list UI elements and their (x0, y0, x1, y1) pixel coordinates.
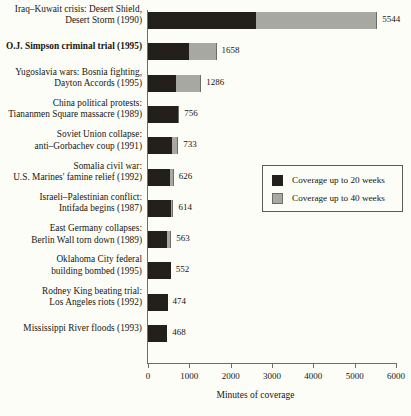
bar-value-label: 1658 (222, 45, 240, 55)
bar-segment-weeks20 (148, 294, 168, 311)
row-label-line: Desert Storm (1990) (0, 15, 142, 26)
row-label: East Germany collapses:Berlin Wall torn … (0, 223, 142, 246)
bar-segment-weeks40 (170, 169, 174, 186)
row-label-line: China political protests: (0, 98, 142, 109)
legend-item-weeks40: Coverage up to 40 weeks (272, 189, 402, 207)
x-tick-label: 6000 (387, 371, 405, 381)
bar-segment-weeks20 (148, 262, 171, 279)
row-label-line: Oklahoma City federal (0, 254, 142, 265)
x-tick-label: 0 (146, 371, 151, 381)
row-label-line: O.J. Simpson criminal trial (1995) (0, 41, 142, 52)
stacked-bar (148, 12, 377, 29)
x-tick (355, 363, 356, 368)
x-tick-label: 1000 (180, 371, 198, 381)
chart-row: Iraq–Kuwait crisis: Desert Shield,Desert… (0, 8, 411, 39)
row-label-line: anti–Gorbachev coup (1991) (0, 141, 142, 152)
row-label: O.J. Simpson criminal trial (1995) (0, 41, 142, 52)
row-label: Soviet Union collapse:anti–Gorbachev cou… (0, 129, 142, 152)
row-label-line: Israeli–Palestinian conflict: (0, 192, 142, 203)
x-tick (272, 363, 273, 368)
bar-segment-weeks40 (167, 231, 172, 248)
bar-value-label: 756 (184, 108, 198, 118)
bar-segment-weeks20 (148, 200, 171, 217)
legend-item-weeks20: Coverage up to 20 weeks (272, 171, 402, 189)
row-label-line: East Germany collapses: (0, 223, 142, 234)
row-label: Rodney King beating trial:Los Angeles ri… (0, 286, 142, 309)
chart-row: Mississippi River floods (1993)468 (0, 321, 411, 352)
x-tick (396, 363, 397, 368)
x-tick-label: 5000 (346, 371, 364, 381)
x-tick (231, 363, 232, 368)
stacked-bar (148, 294, 168, 311)
x-axis-title-text: Minutes of coverage (116, 390, 294, 400)
row-label-line: Rodney King beating trial: (0, 286, 142, 297)
bar-value-label: 552 (176, 264, 190, 274)
bar-value-label: 1286 (206, 77, 224, 87)
x-tick-label: 4000 (304, 371, 322, 381)
bar-segment-weeks40 (256, 12, 377, 29)
row-label: Israeli–Palestinian conflict:Intifada be… (0, 192, 142, 215)
row-label-line: Tiananmen Square massacre (1989) (0, 109, 142, 120)
row-label-line: Los Angeles riots (1992) (0, 297, 142, 308)
bar-value-label: 5544 (382, 14, 400, 24)
row-label: Mississippi River floods (1993) (0, 323, 142, 334)
bar-value-label: 474 (173, 296, 187, 306)
legend-label-weeks40: Coverage up to 40 weeks (292, 193, 385, 203)
bar-segment-weeks40 (178, 106, 179, 123)
row-label-line: Mississippi River floods (1993) (0, 323, 142, 334)
bar-segment-weeks20 (148, 325, 167, 342)
stacked-bar (148, 137, 178, 154)
bar-segment-weeks20 (148, 43, 189, 60)
bar-chart: Iraq–Kuwait crisis: Desert Shield,Desert… (0, 0, 411, 416)
bar-segment-weeks20 (148, 231, 167, 248)
x-tick (313, 363, 314, 368)
row-label-line: Berlin Wall torn down (1989) (0, 235, 142, 246)
bar-value-label: 614 (178, 202, 192, 212)
bar-value-label: 733 (183, 139, 197, 149)
chart-row: Rodney King beating trial:Los Angeles ri… (0, 290, 411, 321)
bar-segment-weeks20 (148, 75, 176, 92)
row-label-line: Dayton Accords (1995) (0, 78, 142, 89)
bar-segment-weeks40 (189, 43, 217, 60)
row-label: Oklahoma City federalbuilding bombed (19… (0, 254, 142, 277)
stacked-bar (148, 200, 173, 217)
bar-value-label: 563 (176, 233, 190, 243)
stacked-bar (148, 106, 179, 123)
stacked-bar (148, 231, 171, 248)
row-label-line: Soviet Union collapse: (0, 129, 142, 140)
row-label-line: Iraq–Kuwait crisis: Desert Shield, (0, 4, 142, 15)
bar-segment-weeks20 (148, 137, 172, 154)
stacked-bar (148, 325, 167, 342)
row-label-line: U.S. Marines' famine relief (1992) (0, 172, 142, 183)
legend-swatch-gray-icon (272, 193, 283, 204)
row-label: China political protests:Tiananmen Squar… (0, 98, 142, 121)
row-label: Yugoslavia wars: Bosnia fighting,Dayton … (0, 67, 142, 90)
row-label-line: Intifada begins (1987) (0, 203, 142, 214)
bar-segment-weeks40 (172, 137, 178, 154)
x-tick (148, 363, 149, 368)
x-tick-label: 2000 (222, 371, 240, 381)
row-label-line: building bombed (1995) (0, 266, 142, 277)
stacked-bar (148, 75, 201, 92)
legend-label-weeks20: Coverage up to 20 weeks (292, 175, 385, 185)
bar-value-label: 626 (179, 171, 193, 181)
row-label-line: Somalia civil war: (0, 161, 142, 172)
stacked-bar (148, 43, 217, 60)
row-label: Somalia civil war:U.S. Marines' famine r… (0, 161, 142, 184)
legend-swatch-black-icon (272, 175, 283, 186)
chart-legend: Coverage up to 20 weeks Coverage up to 4… (262, 165, 403, 212)
row-label-line: Yugoslavia wars: Bosnia fighting, (0, 67, 142, 78)
row-label: Iraq–Kuwait crisis: Desert Shield,Desert… (0, 4, 142, 27)
bar-segment-weeks40 (171, 200, 173, 217)
stacked-bar (148, 262, 171, 279)
x-axis-title: Minutes of coverage (0, 390, 411, 400)
x-tick (189, 363, 190, 368)
bar-value-label: 468 (172, 327, 186, 337)
bar-segment-weeks40 (176, 75, 201, 92)
stacked-bar (148, 169, 174, 186)
bar-segment-weeks20 (148, 12, 256, 29)
bar-segment-weeks20 (148, 169, 170, 186)
bar-segment-weeks20 (148, 106, 178, 123)
x-tick-label: 3000 (263, 371, 281, 381)
